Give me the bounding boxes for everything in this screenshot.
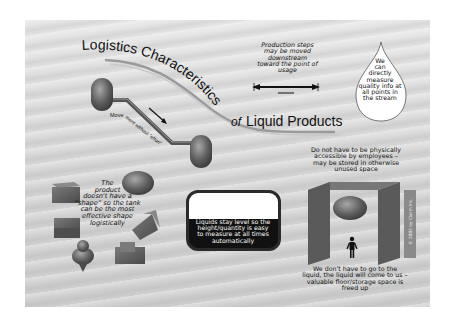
person-icon xyxy=(347,237,357,258)
liquid-level-top xyxy=(189,193,278,219)
liquid-comes-note: We don't have to go to the liquid, the l… xyxy=(296,266,414,291)
note-line: freed up xyxy=(296,285,414,291)
accessibility-note: Do not have to be physically accessible … xyxy=(300,147,412,172)
copyright-text: © 2005 by Clarm Inc. xyxy=(408,188,413,256)
tank-right xyxy=(190,135,212,168)
storage-room-illustration xyxy=(308,182,400,265)
tank-room xyxy=(333,196,367,220)
production-steps-note: Production steps may be moved downstream… xyxy=(250,42,325,73)
quality-measure-note: We can directly measure quality info at … xyxy=(355,58,405,101)
tank-left xyxy=(91,78,113,111)
note-line: the stream xyxy=(355,95,405,101)
note-line: logistically xyxy=(70,220,145,227)
pipeline-label: Move xyxy=(110,112,123,118)
note-line: unused space xyxy=(300,166,412,172)
production-arrow xyxy=(252,83,320,93)
note-line: automatically xyxy=(188,238,278,244)
title-part3: Liquid Products xyxy=(246,113,343,129)
title-part2: of xyxy=(231,115,243,129)
pipeline-illustration: Move ment without "effort" xyxy=(91,78,212,168)
liquid-level-note: Liquids stay level so the height/quantit… xyxy=(188,219,278,244)
copyright-badge: © 2005 by Clarm Inc. xyxy=(404,190,416,258)
note-line: usage xyxy=(250,67,325,73)
shape-note: The product doesn't have a “shape” so th… xyxy=(70,180,145,226)
